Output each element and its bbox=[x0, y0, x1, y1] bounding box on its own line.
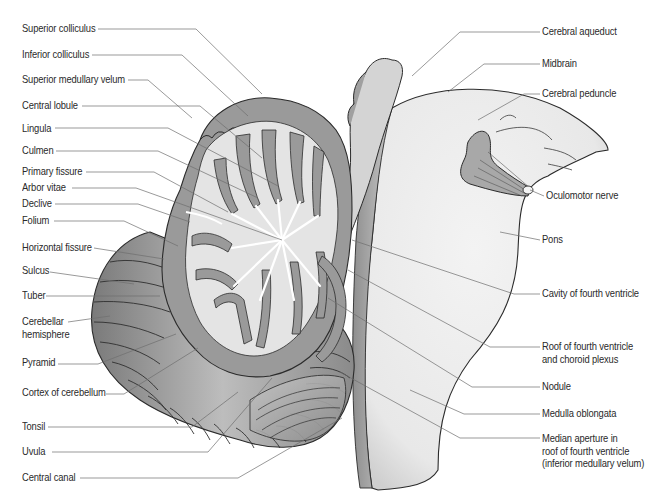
label-central-lobule: Central lobule bbox=[22, 100, 78, 113]
label-cortex-of-cerebellum: Cortex of cerebellum bbox=[22, 387, 106, 400]
label-primary-fissure: Primary fissure bbox=[22, 166, 82, 179]
label-horizontal-fissure: Horizontal fissure bbox=[22, 242, 92, 255]
brainstem bbox=[345, 59, 608, 491]
label-midbrain: Midbrain bbox=[542, 58, 577, 71]
label-culmen: Culmen bbox=[22, 145, 53, 158]
label-nodule: Nodule bbox=[542, 381, 571, 394]
label-declive: Declive bbox=[22, 198, 52, 211]
leader-line-cerebral-aqueduct bbox=[412, 32, 540, 76]
label-cerebral-aqueduct: Cerebral aqueduct bbox=[542, 26, 617, 39]
oculomotor-nerve-stump bbox=[523, 186, 533, 194]
leader-line-superior-medullary-velum bbox=[128, 80, 192, 118]
label-superior-medullary-velum: Superior medullary velum bbox=[22, 74, 125, 87]
label-arbor-vitae: Arbor vitae bbox=[22, 182, 66, 195]
label-central-canal: Central canal bbox=[22, 472, 75, 485]
label-pons: Pons bbox=[542, 234, 563, 247]
label-lingula: Lingula bbox=[22, 123, 51, 136]
label-pyramid: Pyramid bbox=[22, 357, 55, 370]
label-uvula: Uvula bbox=[22, 446, 45, 459]
label-roof-of-fourth-ventricle: Roof of fourth ventricle and choroid ple… bbox=[542, 341, 633, 366]
label-cerebellar-hemisphere: Cerebellar hemisphere bbox=[22, 316, 70, 341]
leader-line-midbrain bbox=[448, 64, 540, 92]
label-superior-colliculus: Superior colliculus bbox=[22, 23, 95, 36]
label-tuber: Tuber bbox=[22, 290, 45, 303]
label-tonsil: Tonsil bbox=[22, 421, 45, 434]
label-folium: Folium bbox=[22, 215, 49, 228]
cerebellum-diagram: Superior colliculus Inferior colliculus … bbox=[0, 0, 658, 497]
label-inferior-colliculus: Inferior colliculus bbox=[22, 49, 89, 62]
leader-line-oculomotor-nerve bbox=[530, 190, 544, 196]
label-oculomotor-nerve: Oculomotor nerve bbox=[546, 190, 618, 203]
label-cavity-of-fourth-ventricle: Cavity of fourth ventricle bbox=[542, 288, 639, 301]
label-sulcus: Sulcus bbox=[22, 265, 49, 278]
label-cerebral-peduncle: Cerebral peduncle bbox=[542, 88, 616, 101]
label-medulla-oblongata: Medulla oblongata bbox=[542, 408, 616, 421]
label-median-aperture: Median aperture in roof of fourth ventri… bbox=[542, 433, 644, 471]
